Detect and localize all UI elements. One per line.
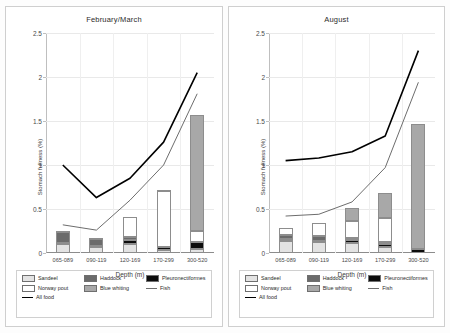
legend-label: Norway pout — [261, 286, 291, 291]
x-axis-tick-label: 300-520 — [187, 257, 208, 263]
legend-label: Blue whiting — [323, 286, 352, 291]
legend-label: Sandeel — [261, 276, 281, 281]
legend-item-norway-pout[interactable]: Norway pout — [245, 285, 305, 292]
legend-swatch-icon — [146, 275, 159, 282]
legend-item-all-food[interactable]: All food — [245, 295, 305, 300]
legend-item-pleuronectiformes[interactable]: Pleuronectiformes — [146, 275, 206, 282]
legend-item-all-food[interactable]: All food — [22, 295, 82, 300]
legend-swatch-icon — [307, 285, 320, 292]
legend-swatch-icon — [22, 275, 35, 282]
y-axis-tick-label: 2 — [261, 74, 265, 81]
chart-title-left: February/March — [6, 15, 222, 24]
legend-swatch-icon — [22, 285, 35, 292]
line-all-food — [286, 51, 419, 161]
legend-label: Pleuronectiformes — [384, 276, 427, 281]
legend-swatch-icon — [368, 288, 379, 289]
x-axis-tick-label: 065-089 — [275, 257, 296, 263]
legend-swatch-icon — [84, 285, 97, 292]
legend-label: Norway pout — [38, 286, 68, 291]
legend-item-sandeel[interactable]: Sandeel — [245, 275, 305, 282]
x-axis-tick-label: 090-119 — [86, 257, 106, 263]
y-axis-tick-label: 2 — [38, 74, 42, 81]
legend-label: All food — [259, 295, 277, 300]
x-axis-tick-label: 170-299 — [375, 257, 396, 263]
legend-item-fish[interactable]: Fish — [146, 285, 206, 292]
plot-area-right: 00.511.522.5065-089090-119120-169170-299… — [269, 33, 435, 253]
legend-item-haddock[interactable]: Haddock — [307, 275, 367, 282]
legend-item-sandeel[interactable]: Sandeel — [22, 275, 82, 282]
x-axis-tick-label: 065-089 — [53, 257, 74, 263]
legend-left: SandeelHaddockPleuronectiformesNorway po… — [16, 270, 212, 318]
chart-panel-august: August Stomach fullness (%) 00.511.522.5… — [228, 6, 445, 327]
legend-item-blue-whiting[interactable]: Blue whiting — [307, 285, 367, 292]
legend-label: Haddock — [323, 276, 344, 281]
legend-swatch-icon — [245, 285, 258, 292]
x-axis-tick-label: 170-299 — [153, 257, 174, 263]
figure-canvas: February/March Stomach fullness (%) 00.5… — [0, 0, 450, 333]
legend-swatch-icon — [307, 275, 320, 282]
y-axis-tick-mark — [266, 253, 269, 254]
legend-label: Blue whiting — [100, 286, 129, 291]
y-axis-tick-label: 1.5 — [256, 118, 265, 125]
legend-label: All food — [36, 295, 54, 300]
legend-label: Fish — [382, 286, 392, 291]
y-axis-tick-label: 0.5 — [33, 206, 42, 213]
y-axis-tick-label: 2.5 — [33, 30, 42, 37]
x-axis-tick-label: 300-520 — [408, 257, 429, 263]
legend-swatch-icon — [84, 275, 97, 282]
legend-item-haddock[interactable]: Haddock — [84, 275, 144, 282]
legend-swatch-icon — [245, 297, 256, 298]
legend-item-norway-pout[interactable]: Norway pout — [22, 285, 82, 292]
legend-label: Sandeel — [38, 276, 58, 281]
legend-label: Fish — [160, 286, 170, 291]
y-axis-tick-label: 1.5 — [33, 118, 42, 125]
x-axis-tick-label: 120-169 — [342, 257, 363, 263]
legend-right: SandeelHaddockPleuronectiformesNorway po… — [239, 270, 434, 318]
line-series-layer — [46, 33, 214, 253]
x-axis-tick-label: 120-169 — [120, 257, 141, 263]
plot-area-left: 00.511.522.5065-089090-119120-169170-299… — [46, 33, 214, 253]
y-axis-tick-label: 0.5 — [256, 206, 265, 213]
chart-title-right: August — [229, 15, 444, 24]
legend-label: Haddock — [100, 276, 121, 281]
legend-swatch-icon — [22, 297, 33, 298]
legend-swatch-icon — [368, 275, 381, 282]
y-axis-tick-label: 0 — [261, 250, 265, 257]
legend-swatch-icon — [245, 275, 258, 282]
legend-item-fish[interactable]: Fish — [368, 285, 428, 292]
legend-label: Pleuronectiformes — [162, 276, 205, 281]
x-axis-tick-label: 090-119 — [309, 257, 329, 263]
y-axis-tick-label: 0 — [38, 250, 42, 257]
y-axis-tick-label: 2.5 — [256, 30, 265, 37]
line-all-food — [63, 73, 197, 198]
line-series-layer — [269, 33, 435, 253]
legend-item-pleuronectiformes[interactable]: Pleuronectiformes — [368, 275, 428, 282]
chart-panel-february-march: February/March Stomach fullness (%) 00.5… — [5, 6, 223, 327]
y-axis-tick-label: 1 — [261, 162, 265, 169]
legend-item-blue-whiting[interactable]: Blue whiting — [84, 285, 144, 292]
y-axis-tick-mark — [43, 253, 46, 254]
y-axis-tick-label: 1 — [38, 162, 42, 169]
legend-swatch-icon — [146, 288, 157, 289]
